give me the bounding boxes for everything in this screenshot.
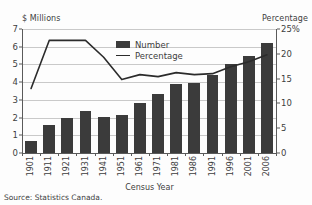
- x-axis-tick-label: 2001: [245, 156, 253, 176]
- y-axis-left-tick-mark: [19, 82, 22, 83]
- chart-legend: Number Percentage: [116, 39, 183, 61]
- y-axis-right-tick-label: 25%: [281, 25, 307, 34]
- x-axis-tick-mark: [203, 153, 204, 156]
- x-axis-tick-label: 1951: [118, 156, 126, 176]
- x-axis-tick-label: 1941: [100, 156, 108, 176]
- y-axis-left-tick-mark: [19, 99, 22, 100]
- y-axis-right-tick-mark: [277, 53, 280, 54]
- x-axis-tick-label: 1986: [190, 156, 198, 176]
- x-axis-tick-label: 1971: [154, 156, 162, 176]
- source-note: Source: Statistics Canada.: [4, 193, 102, 202]
- y-axis-right-tick-label: 5: [281, 124, 307, 133]
- x-axis-tick-mark: [240, 153, 241, 156]
- x-axis-tick-label: 2006: [263, 156, 271, 176]
- y-axis-left-tick-label: 6: [6, 42, 18, 51]
- y-axis-right-tick-mark: [277, 128, 280, 129]
- x-axis-tick-mark: [58, 153, 59, 156]
- x-axis-tick-label: 1921: [63, 156, 71, 176]
- y-axis-right-tick-label: 20: [281, 50, 307, 59]
- x-axis-tick-mark: [149, 153, 150, 156]
- y-axis-left-tick-label: 2: [6, 113, 18, 122]
- y-axis-right-line: [276, 29, 277, 154]
- legend-item-percentage: Percentage: [116, 50, 183, 61]
- x-axis-tick-label: 1911: [45, 156, 53, 176]
- legend-label-percentage: Percentage: [135, 51, 183, 61]
- y-axis-left-tick-label: 7: [6, 25, 18, 34]
- x-axis-tick-label: 1981: [172, 156, 180, 176]
- x-axis-tick-mark: [95, 153, 96, 156]
- y-axis-left-tick-label: 5: [6, 60, 18, 69]
- x-axis-tick-mark: [185, 153, 186, 156]
- x-axis-title: Census Year: [22, 183, 277, 192]
- right-axis-caption: Percentage: [262, 14, 308, 23]
- y-axis-right-tick-mark: [277, 78, 280, 79]
- x-axis-tick-label: 1961: [136, 156, 144, 176]
- x-axis-tick-mark: [113, 153, 114, 156]
- y-axis-left-tick-label: 3: [6, 96, 18, 105]
- x-axis-tick-mark: [76, 153, 77, 156]
- y-axis-right-tick-mark: [277, 103, 280, 104]
- x-axis-tick-mark: [222, 153, 223, 156]
- y-axis-left-tick-mark: [19, 64, 22, 65]
- x-axis-tick-mark: [276, 153, 277, 156]
- y-axis-left-tick-label: 1: [6, 131, 18, 140]
- y-axis-left-tick-mark: [19, 117, 22, 118]
- x-axis-tick-mark: [131, 153, 132, 156]
- y-axis-right-tick-label: 15: [281, 74, 307, 83]
- y-axis-right-tick-label: 10: [281, 99, 307, 108]
- y-axis-left-tick-label: 0: [6, 149, 18, 158]
- y-axis-right-tick-mark: [277, 153, 280, 154]
- legend-label-number: Number: [135, 40, 169, 50]
- x-axis-tick-mark: [258, 153, 259, 156]
- legend-item-number: Number: [116, 39, 183, 50]
- left-axis-caption: $ Millions: [22, 14, 61, 23]
- y-axis-left-line: [22, 29, 23, 154]
- y-axis-left-tick-mark: [19, 135, 22, 136]
- y-axis-left-tick-label: 4: [6, 78, 18, 87]
- x-axis-tick-mark: [167, 153, 168, 156]
- x-axis-tick-mark: [40, 153, 41, 156]
- chart-figure: $ Millions Percentage 01234567 051015202…: [0, 0, 312, 205]
- y-axis-right-tick-label: 0: [281, 149, 307, 158]
- x-axis-tick-label: 1931: [82, 156, 90, 176]
- x-axis-tick-mark: [22, 153, 23, 156]
- legend-line-swatch-icon: [116, 55, 130, 56]
- y-axis-right-tick-mark: [277, 29, 280, 30]
- x-axis-tick-label: 1991: [209, 156, 217, 176]
- x-axis-tick-label: 1901: [27, 156, 35, 176]
- legend-bar-swatch-icon: [116, 41, 130, 48]
- y-axis-left-tick-mark: [19, 29, 22, 30]
- x-axis-tick-label: 1996: [227, 156, 235, 176]
- y-axis-left-tick-mark: [19, 46, 22, 47]
